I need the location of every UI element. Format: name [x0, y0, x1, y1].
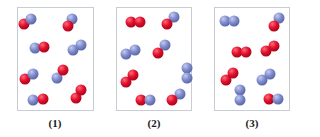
blue-atom-icon [229, 16, 240, 27]
red-atom-icon [228, 68, 239, 79]
red-atom-icon [241, 47, 252, 58]
blue-atom-icon [235, 95, 246, 106]
blue-atom-icon [182, 73, 193, 84]
red-atom-icon [269, 21, 280, 32]
blue-atom-icon [76, 40, 87, 51]
red-atom-icon [58, 65, 69, 76]
blue-atom-icon [26, 14, 37, 25]
red-atom-icon [128, 70, 139, 81]
blue-atom-icon [273, 94, 284, 105]
red-atom-icon [269, 41, 280, 52]
panel-3-label: (3) [246, 117, 259, 129]
red-atom-icon [63, 21, 74, 32]
red-atom-icon [167, 95, 178, 106]
red-atom-icon [153, 48, 164, 59]
blue-atom-icon [130, 45, 141, 56]
panel-2-label: (2) [148, 117, 161, 129]
red-atom-icon [135, 17, 146, 28]
panel-1-label: (1) [49, 117, 62, 129]
red-atom-icon [76, 85, 87, 96]
blue-atom-icon [265, 69, 276, 80]
red-atom-icon [162, 19, 173, 30]
blue-atom-icon [28, 69, 39, 80]
red-atom-icon [38, 94, 49, 105]
red-atom-icon [39, 42, 50, 53]
blue-atom-icon [145, 95, 156, 106]
